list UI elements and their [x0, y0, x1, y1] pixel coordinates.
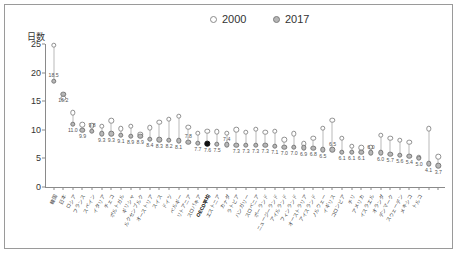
data-point-column[interactable]: 3.7	[433, 44, 443, 187]
data-point-column[interactable]: 7.5エストニア	[212, 44, 222, 187]
marker-2017[interactable]	[368, 150, 373, 155]
marker-2017[interactable]	[147, 136, 152, 141]
marker-2000[interactable]	[147, 125, 152, 130]
marker-2017[interactable]	[262, 143, 267, 148]
marker-2000[interactable]	[205, 128, 210, 133]
data-point-column[interactable]: 11.0ロシア	[68, 44, 78, 187]
marker-2017[interactable]	[224, 142, 229, 147]
marker-2017[interactable]	[359, 149, 364, 154]
data-point-column[interactable]: 8.9ルクセンブルク	[135, 44, 145, 187]
marker-2000[interactable]	[282, 137, 287, 142]
marker-2017[interactable]	[378, 150, 383, 155]
data-point-column[interactable]: 9.3イタリア	[97, 44, 107, 187]
marker-2017[interactable]	[301, 145, 306, 150]
data-point-column[interactable]: 9.3チェコ	[107, 44, 117, 187]
marker-2017[interactable]	[387, 152, 392, 157]
marker-2000[interactable]	[397, 137, 402, 142]
data-point-column[interactable]: 7.1ニュージーランド	[270, 44, 280, 187]
marker-2017[interactable]	[243, 143, 248, 148]
data-point-column[interactable]: 6.1チリ	[347, 44, 357, 187]
marker-2017[interactable]	[330, 147, 335, 152]
data-point-column[interactable]: 16.2日本	[58, 44, 68, 187]
data-point-column[interactable]: 8.9ギリシャ	[126, 44, 136, 187]
marker-2017[interactable]	[397, 152, 402, 157]
data-point-column[interactable]: 6.1アメリカ	[357, 44, 367, 187]
data-point-column[interactable]: 7.7スロバキア	[193, 44, 203, 187]
data-point-column[interactable]: 7.0アイルランド	[280, 44, 290, 187]
data-point-column[interactable]: 5.7デンマーク	[385, 44, 395, 187]
data-point-column[interactable]: 5.0トルコ	[414, 44, 424, 187]
data-point-column[interactable]: 9.9フランス	[78, 44, 88, 187]
marker-2000[interactable]	[387, 136, 392, 141]
marker-2017[interactable]	[70, 121, 75, 126]
marker-2000[interactable]	[262, 129, 267, 134]
marker-2000[interactable]	[253, 127, 258, 132]
data-point-column[interactable]: 6.5ノルウェー	[318, 44, 328, 187]
marker-2017[interactable]	[109, 131, 114, 136]
data-point-column[interactable]: 7.6OECD平均	[203, 44, 213, 187]
data-point-column[interactable]: 6.1コロンビア	[337, 44, 347, 187]
marker-2017[interactable]	[137, 133, 142, 138]
data-point-column[interactable]: 18.5韓国	[49, 44, 59, 187]
marker-2000[interactable]	[214, 129, 219, 134]
data-point-column[interactable]: 6.0イスラエル	[366, 44, 376, 187]
marker-2017[interactable]	[234, 143, 239, 148]
data-point-column[interactable]: 5.4メキシコ	[405, 44, 415, 187]
marker-2000[interactable]	[243, 129, 248, 134]
marker-2000[interactable]	[291, 131, 296, 136]
marker-2000[interactable]	[99, 124, 104, 129]
data-point-column[interactable]: 7.4カナダ	[222, 44, 232, 187]
marker-2000[interactable]	[166, 116, 171, 121]
marker-2000[interactable]	[426, 126, 431, 131]
data-point-column[interactable]: 7.3ポーランド	[260, 44, 270, 187]
marker-2017[interactable]	[253, 143, 258, 148]
marker-2017[interactable]	[99, 131, 104, 136]
marker-2000[interactable]	[436, 154, 441, 159]
data-point-column[interactable]: 6.0オランダ	[376, 44, 386, 187]
data-point-column[interactable]: 9.1ポルトガル	[116, 44, 126, 187]
marker-2017[interactable]	[80, 128, 85, 133]
marker-2017[interactable]	[407, 153, 412, 158]
legend-item-2000[interactable]: 2000	[210, 13, 246, 25]
marker-2000[interactable]	[51, 42, 56, 47]
data-point-column[interactable]: 8.3スイス	[155, 44, 165, 187]
data-point-column[interactable]: 5.6スウェーデン	[395, 44, 405, 187]
marker-2017[interactable]	[426, 161, 431, 166]
marker-2000[interactable]	[378, 132, 383, 137]
marker-2000[interactable]	[176, 113, 181, 118]
marker-2000[interactable]	[128, 124, 133, 129]
data-point-column[interactable]: 7.3スロベニア	[251, 44, 261, 187]
marker-2017[interactable]	[214, 141, 219, 146]
marker-2000[interactable]	[118, 126, 123, 131]
marker-2017[interactable]	[416, 156, 421, 161]
marker-2000[interactable]	[234, 127, 239, 132]
data-point-column[interactable]: 8.1ベルギー	[174, 44, 184, 187]
marker-2017[interactable]	[89, 128, 94, 133]
marker-2000[interactable]	[109, 118, 114, 123]
data-point-column[interactable]: 8.4オーストリア	[145, 44, 155, 187]
marker-2000[interactable]	[80, 122, 85, 127]
data-point-column[interactable]: 6.8アイスランド	[308, 44, 318, 187]
marker-2017[interactable]	[157, 137, 162, 142]
marker-2017[interactable]	[320, 147, 325, 152]
marker-2000[interactable]	[330, 117, 335, 122]
marker-2000[interactable]	[186, 124, 191, 129]
marker-2017[interactable]	[118, 132, 123, 137]
marker-2017[interactable]	[291, 144, 296, 149]
marker-2017[interactable]	[282, 144, 287, 149]
data-point-column[interactable]: 7.8リトアニア	[183, 44, 193, 187]
data-point-column[interactable]: 7.3ハンガリー	[241, 44, 251, 187]
marker-2000[interactable]	[311, 136, 316, 141]
marker-2017[interactable]	[339, 149, 344, 154]
marker-2017[interactable]	[349, 149, 354, 154]
marker-2017[interactable]	[436, 163, 441, 168]
marker-2017[interactable]	[311, 145, 316, 150]
marker-2000[interactable]	[407, 140, 412, 145]
marker-2017[interactable]	[195, 140, 200, 145]
marker-2017[interactable]	[176, 138, 181, 143]
data-point-column[interactable]: 7.3ラトビア	[232, 44, 242, 187]
data-point-column[interactable]: 6.9オーストラリア	[299, 44, 309, 187]
marker-2017[interactable]	[51, 78, 56, 83]
marker-2000[interactable]	[157, 120, 162, 125]
marker-2000[interactable]	[349, 144, 354, 149]
